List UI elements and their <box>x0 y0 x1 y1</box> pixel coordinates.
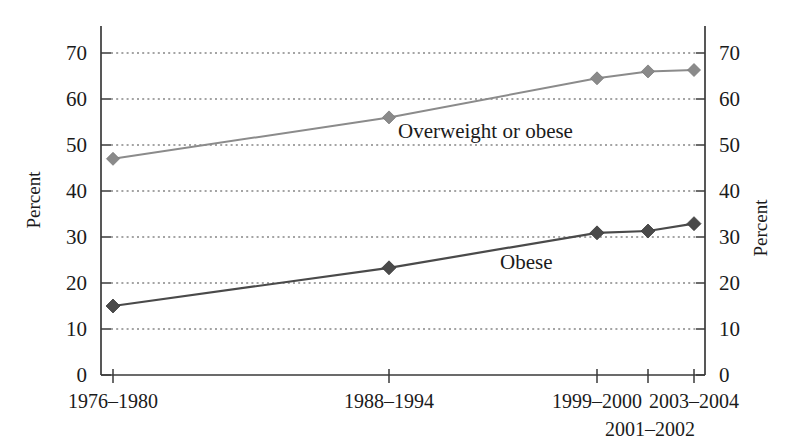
y-axis-title-right: Percent <box>750 199 771 257</box>
data-point-marker <box>688 64 701 77</box>
data-point-marker <box>590 226 604 240</box>
y-tick-label-right: 0 <box>719 363 730 387</box>
x-axis-label: 2003–2004 <box>649 390 739 412</box>
y-tick-label-right: 40 <box>719 179 740 203</box>
y-tick-label-right: 20 <box>719 271 740 295</box>
y-tick-label-right: 30 <box>719 225 740 249</box>
x-axis-label: 1976–1980 <box>68 390 158 412</box>
data-point-marker <box>106 299 120 313</box>
data-point-marker <box>383 111 396 124</box>
y-tick-label-left: 10 <box>66 317 87 341</box>
right-tick-labels: 010203040506070 <box>719 41 740 387</box>
y-tick-label-left: 20 <box>66 271 87 295</box>
left-tick-labels: 010203040506070 <box>66 41 87 387</box>
data-point-marker <box>107 152 120 165</box>
gridlines-group <box>111 53 697 329</box>
y-tick-label-left: 0 <box>77 363 88 387</box>
x-axis-label: 2001–2002 <box>605 418 695 440</box>
data-point-marker <box>687 217 701 231</box>
series-annotation-obese: Obese <box>500 250 552 274</box>
x-axis-category-labels: 1976–19801988–19941999–20002003–20042001… <box>68 390 739 440</box>
data-point-marker <box>641 224 655 238</box>
y-axis-title-left: Percent <box>23 171 44 229</box>
right-tick-marks <box>696 53 705 375</box>
x-tick-marks <box>113 369 694 383</box>
y-tick-label-left: 40 <box>66 179 87 203</box>
y-tick-label-right: 60 <box>719 87 740 111</box>
y-tick-label-left: 70 <box>66 41 87 65</box>
series-annotation-overweight-or-obese: Overweight or obese <box>398 119 573 143</box>
data-point-marker <box>382 261 396 275</box>
x-axis-label: 1988–1994 <box>344 390 434 412</box>
x-axis-label: 1999–2000 <box>552 390 642 412</box>
chart-container: 010203040506070 010203040506070 Percent … <box>0 0 801 448</box>
data-point-marker <box>642 65 655 78</box>
left-tick-marks <box>101 53 111 375</box>
series-line-obese <box>113 224 694 306</box>
data-point-marker <box>591 72 604 85</box>
line-chart: 010203040506070 010203040506070 Percent … <box>0 0 801 448</box>
y-tick-label-right: 70 <box>719 41 740 65</box>
y-tick-label-right: 10 <box>719 317 740 341</box>
y-tick-label-left: 30 <box>66 225 87 249</box>
y-tick-label-left: 50 <box>66 133 87 157</box>
y-tick-label-left: 60 <box>66 87 87 111</box>
y-tick-label-right: 50 <box>719 133 740 157</box>
